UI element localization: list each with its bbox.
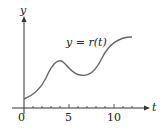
tick-label-10: 10 [107,111,121,124]
x-axis-arrow-icon [144,106,150,111]
x-axis-label: t [152,101,157,114]
chart: 0 5 10 t y y = r(t) [0,0,161,132]
tick-label-0: 0 [18,111,25,124]
y-axis-label: y [19,4,27,17]
x-ticks [33,104,132,108]
tick-label-5: 5 [65,111,72,124]
curve-label: y = r(t) [65,36,107,49]
